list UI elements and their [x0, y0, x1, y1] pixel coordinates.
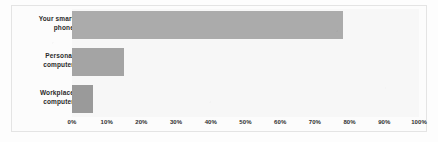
bar-workplace-computer [72, 85, 93, 113]
plot-area [72, 9, 419, 117]
scanned-page-background: lity of SM gain in reporting and data on… [0, 0, 438, 142]
x-axis-tick-0: 0% [68, 119, 77, 125]
x-axis-tick-50: 50% [239, 119, 251, 125]
bar-row-your-smart-phone [72, 11, 419, 39]
horizontal-bar-chart: Your smart phone Personal computer Workp… [11, 5, 427, 132]
category-label-your-smart-phone: Your smart phone [0, 15, 74, 33]
bar-row-workplace-computer [72, 85, 419, 113]
x-axis-tick-labels: 0%10%20%30%40%50%60%70%80%90%100% [72, 119, 419, 131]
x-axis-tick-20: 20% [135, 119, 147, 125]
x-axis-tick-40: 40% [205, 119, 217, 125]
category-label-workplace-computer: Workplace computer [0, 89, 74, 107]
category-label-line: Workplace [0, 89, 74, 98]
x-axis-tick-10: 10% [101, 119, 113, 125]
x-axis-tick-90: 90% [378, 119, 390, 125]
x-axis-tick-80: 80% [343, 119, 355, 125]
category-label-personal-computer: Personal computer [0, 52, 74, 70]
category-label-line: Your smart [0, 15, 74, 24]
bar-row-personal-computer [72, 48, 419, 76]
x-axis-tick-70: 70% [309, 119, 321, 125]
category-label-line: Personal [0, 52, 74, 61]
category-label-line: computer [0, 98, 74, 107]
x-axis-tick-100: 100% [411, 119, 427, 125]
x-axis-tick-30: 30% [170, 119, 182, 125]
bar-personal-computer [72, 48, 124, 76]
x-axis-tick-60: 60% [274, 119, 286, 125]
bar-your-smart-phone [72, 11, 343, 39]
category-label-line: computer [0, 61, 74, 70]
category-label-line: phone [0, 24, 74, 33]
